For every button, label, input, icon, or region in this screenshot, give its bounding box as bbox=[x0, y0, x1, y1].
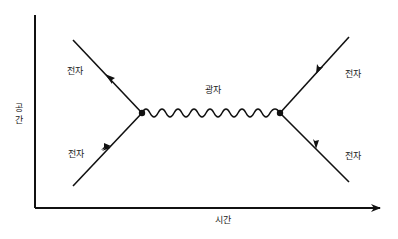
vertex-left bbox=[139, 110, 145, 116]
label-photon: 광자 bbox=[205, 86, 221, 95]
x-axis-label: 시간 bbox=[215, 216, 231, 225]
y-axis-label-char-1: 공 bbox=[14, 102, 24, 114]
label-electron-lower-left: 전자 bbox=[68, 150, 84, 159]
feynman-diagram bbox=[0, 0, 398, 239]
y-axis-label-char-2: 간 bbox=[14, 114, 24, 126]
y-axis-label: 공 간 bbox=[14, 102, 24, 126]
arrow-icon-upper-right bbox=[316, 64, 323, 74]
label-electron-lower-right: 전자 bbox=[345, 152, 361, 161]
photon-wave bbox=[142, 109, 280, 117]
electron-line-lower-right bbox=[280, 113, 349, 182]
electron-line-upper-right bbox=[280, 37, 349, 113]
vertex-right bbox=[277, 110, 283, 116]
label-electron-upper-right: 전자 bbox=[345, 70, 361, 79]
label-electron-upper-left: 전자 bbox=[67, 67, 83, 76]
